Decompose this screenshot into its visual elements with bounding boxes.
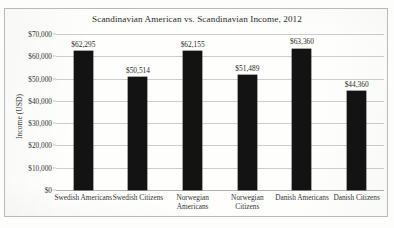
bar-group: $62,155Norwegian Americans	[165, 34, 220, 190]
bar-value-label: $51,489	[235, 64, 259, 73]
y-axis-tick-label: $10,000	[28, 163, 52, 172]
plot-area: $0$10,000$20,000$30,000$40,000$50,000$60…	[56, 34, 384, 190]
bar-value-label: $44,360	[345, 80, 369, 89]
bar-group: $63,360Danish Americans	[275, 34, 330, 190]
y-axis-tick-label: $30,000	[28, 119, 52, 128]
x-axis-category-label: Swedish Citizens	[109, 194, 167, 203]
bar[interactable]: $62,155	[183, 51, 202, 190]
x-axis-category-label: Danish Citizens	[321, 194, 393, 203]
y-axis-tick-label: $20,000	[28, 141, 52, 150]
bar-group: $44,360Danish Citizens	[329, 34, 384, 190]
y-axis-tick-label: $50,000	[28, 74, 52, 83]
bar[interactable]: $44,360	[347, 91, 366, 190]
chart-screenshot: Scandinavian American vs. Scandinavian I…	[0, 0, 394, 228]
bar[interactable]: $63,360	[292, 49, 311, 190]
bar-value-label: $62,155	[181, 40, 205, 49]
y-axis-title: Income (USD)	[15, 64, 24, 170]
bar[interactable]: $62,295	[74, 51, 93, 190]
y-axis-tick-label: $40,000	[28, 96, 52, 105]
x-axis-category-label: Norwegian Americans	[164, 194, 222, 211]
chart-title: Scandinavian American vs. Scandinavian I…	[5, 14, 389, 24]
bar-value-label: $63,360	[290, 37, 314, 46]
gridline-0	[56, 190, 384, 191]
y-axis-tick-label: $0	[45, 186, 52, 195]
y-axis-tick-label: $70,000	[28, 30, 52, 39]
bar-group: $62,295Swedish Americans	[56, 34, 111, 190]
bar-group: $51,489Norwegian Citizens	[220, 34, 275, 190]
x-axis-category-label: Swedish Americans	[54, 194, 112, 203]
y-axis-tick-label: $60,000	[28, 52, 52, 61]
bar[interactable]: $50,514	[128, 77, 147, 190]
bar-value-label: $62,295	[71, 40, 95, 49]
bar-value-label: $50,514	[126, 66, 150, 75]
chart-frame: Scandinavian American vs. Scandinavian I…	[4, 8, 388, 217]
bar[interactable]: $51,489	[238, 75, 257, 190]
bar-group: $50,514Swedish Citizens	[111, 34, 166, 190]
